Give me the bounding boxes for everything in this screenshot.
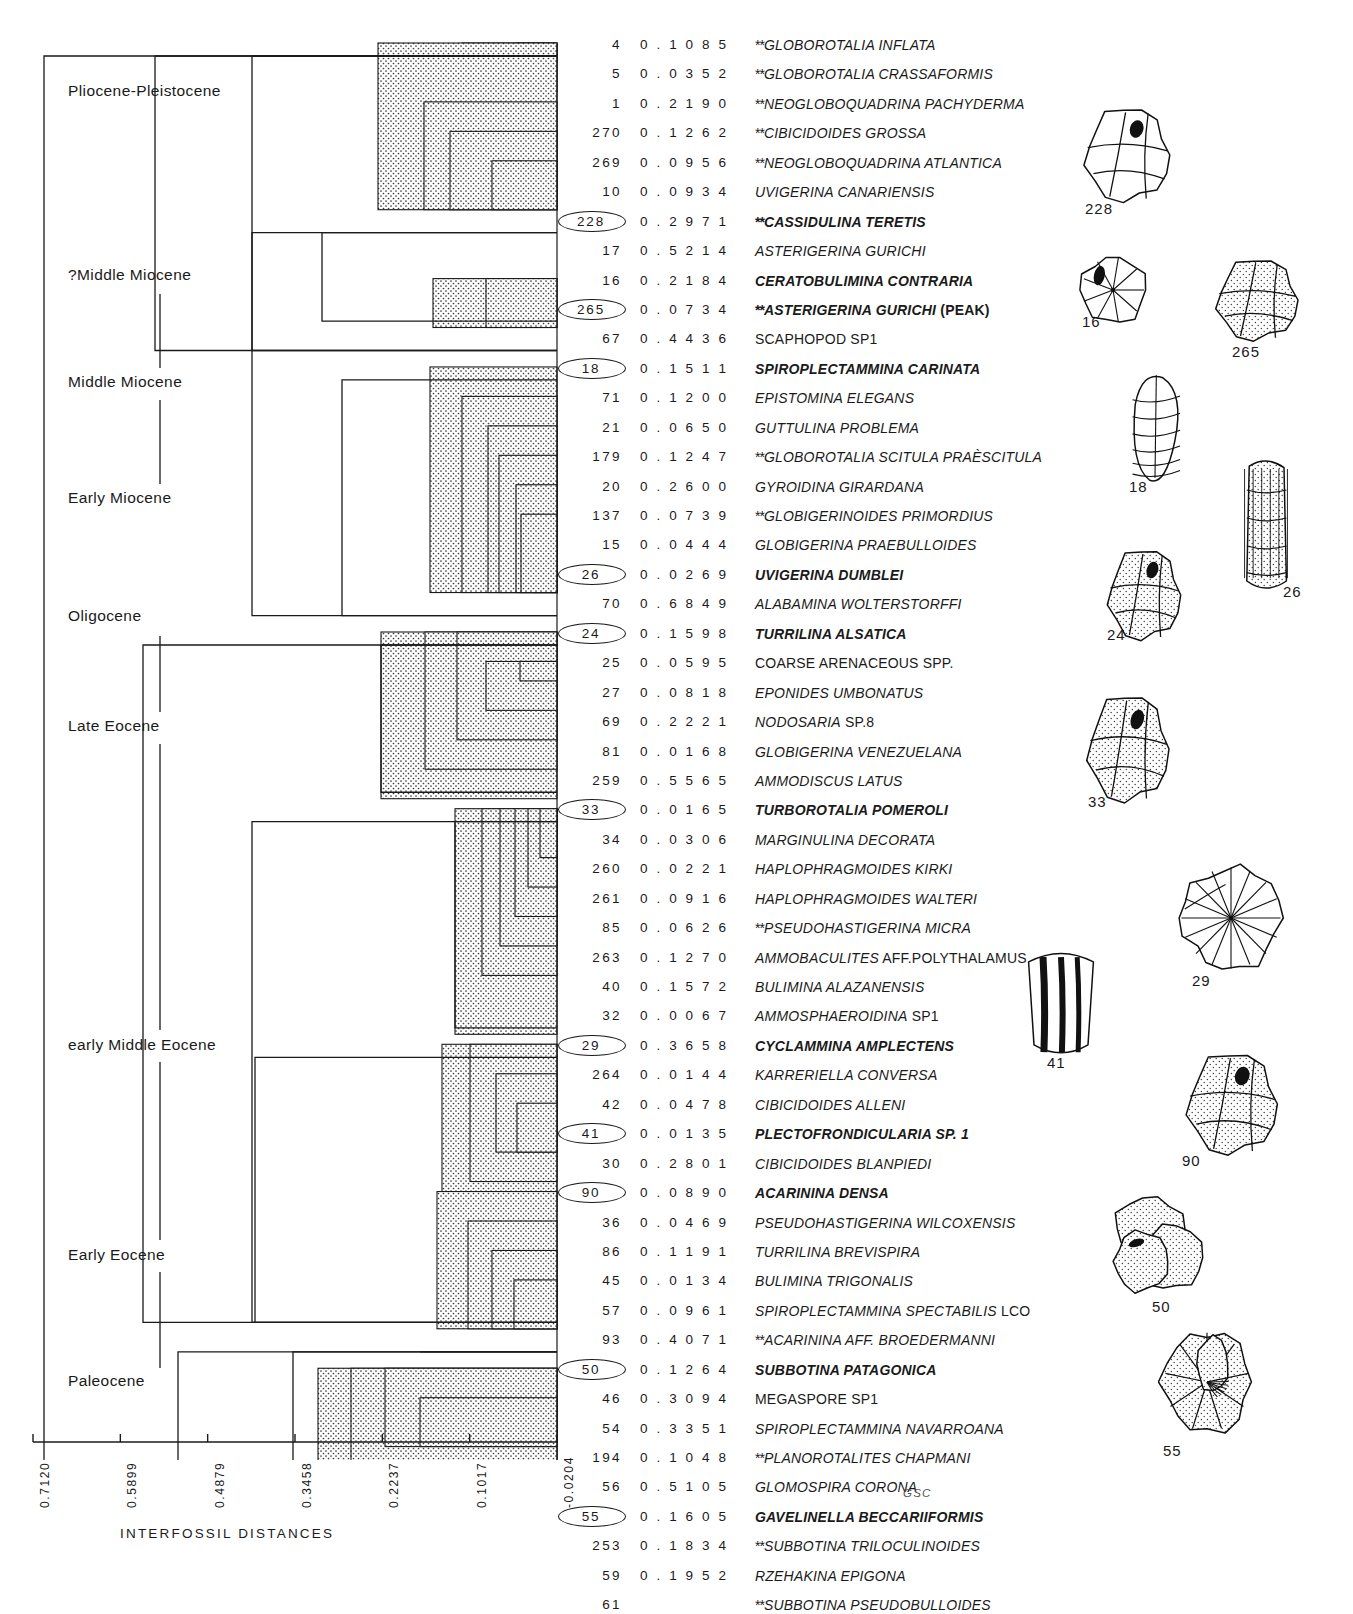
- taxon-name: UVIGERINA DUMBLEI: [755, 567, 903, 583]
- taxon-distance: 0 . 2 1 9 0: [640, 96, 732, 111]
- taxon-name: ALABAMINA WOLTERSTORFFI: [755, 596, 962, 612]
- taxon-distance: 0 . 0 1 4 4: [640, 1067, 732, 1082]
- taxon-number: 93: [560, 1332, 622, 1347]
- dendrogram-panel: Pliocene-Pleistocene?Middle MioceneMiddl…: [0, 0, 600, 1460]
- taxon-name: TURBOROTALIA POMEROLI: [755, 802, 948, 818]
- taxon-name: HAPLOPHRAGMOIDES WALTERI: [755, 891, 977, 907]
- taxon-name: **GLOBOROTALIA SCITULA PRAÈSCITULA: [755, 449, 1042, 465]
- axis-tick-label: 0.3458: [300, 1462, 314, 1508]
- taxon-distance: 0 . 0 4 6 9: [640, 1215, 732, 1230]
- taxon-number: 56: [560, 1479, 622, 1494]
- taxon-row: 1790 . 1 2 4 7**GLOBOROTALIA SCITULA PRA…: [560, 445, 1080, 474]
- taxon-row: 2280 . 2 9 7 1**CASSIDULINA TERETIS: [560, 210, 1080, 239]
- taxon-number-circled: 41: [558, 1123, 626, 1144]
- epoch-label: Early Miocene: [68, 489, 171, 507]
- taxon-row: 670 . 4 4 3 6SCAPHOPOD SP1: [560, 327, 1080, 356]
- taxon-number: 86: [560, 1244, 622, 1259]
- taxon-number-circled: 228: [558, 211, 626, 232]
- epoch-label: ?Middle Miocene: [68, 266, 191, 284]
- taxon-distance: 0 . 2 6 0 0: [640, 479, 732, 494]
- taxon-number: 61: [560, 1597, 622, 1612]
- taxon-row: 260 . 0 2 6 9UVIGERINA DUMBLEI: [560, 563, 1080, 592]
- taxon-number: 259: [560, 773, 622, 788]
- taxon-distance: 0 . 1 5 9 8: [640, 626, 732, 641]
- taxon-name: PSEUDOHASTIGERINA WILCOXENSIS: [755, 1215, 1015, 1231]
- taxon-row: 540 . 3 3 5 1SPIROPLECTAMMINA NAVARROANA: [560, 1417, 1080, 1446]
- taxon-distance: 0 . 1 0 4 8: [640, 1450, 732, 1465]
- taxon-row: 450 . 0 1 3 4BULIMINA TRIGONALIS: [560, 1269, 1080, 1298]
- fossil-number-label: 50: [1152, 1298, 1171, 1315]
- taxon-number: 46: [560, 1391, 622, 1406]
- taxon-row: 170 . 5 2 1 4ASTERIGERINA GURICHI: [560, 239, 1080, 268]
- taxon-distance: 0 . 4 4 3 6: [640, 331, 732, 346]
- taxon-name: ASTERIGERINA GURICHI: [755, 243, 926, 259]
- taxon-number: 40: [560, 979, 622, 994]
- taxon-row: 690 . 2 2 2 1NODOSARIA SP.8: [560, 710, 1080, 739]
- taxon-number: 264: [560, 1067, 622, 1082]
- interfossil-distance-axis: 0.71200.58990.48790.34580.22370.1017-0.0…: [0, 1430, 600, 1567]
- fossil-number-label: 90: [1182, 1152, 1201, 1169]
- taxon-row: 1940 . 1 0 4 8**PLANOROTALITES CHAPMANI: [560, 1446, 1080, 1475]
- taxon-row: 150 . 0 4 4 4GLOBIGERINA PRAEBULLOIDES: [560, 533, 1080, 562]
- taxon-number: 27: [560, 685, 622, 700]
- fossil-illustration: [1236, 455, 1296, 595]
- taxon-number: 270: [560, 125, 622, 140]
- taxon-name: GYROIDINA GIRARDANA: [755, 479, 924, 495]
- taxon-distance: 0 . 0 9 5 6: [640, 155, 732, 170]
- taxon-name: RZEHAKINA EPIGONA: [755, 1568, 906, 1584]
- taxon-distance: 0 . 0 8 1 8: [640, 685, 732, 700]
- taxon-row: 40 . 1 0 8 5**GLOBOROTALIA INFLATA: [560, 33, 1080, 62]
- taxon-row: 900 . 0 8 9 0ACARININA DENSA: [560, 1181, 1080, 1210]
- fossil-number-label: 16: [1082, 313, 1101, 330]
- taxon-row: 2590 . 5 5 6 5AMMODISCUS LATUS: [560, 769, 1080, 798]
- taxon-name: SPIROPLECTAMMINA SPECTABILIS LCO: [755, 1303, 1030, 1319]
- taxon-name: MARGINULINA DECORATA: [755, 832, 935, 848]
- taxon-number: 17: [560, 243, 622, 258]
- taxon-row: 360 . 0 4 6 9PSEUDOHASTIGERINA WILCOXENS…: [560, 1211, 1080, 1240]
- taxon-distance: 0 . 0 8 9 0: [640, 1185, 732, 1200]
- taxon-name: TURRILINA BREVISPIRA: [755, 1244, 920, 1260]
- taxon-distance: 0 . 1 1 9 1: [640, 1244, 732, 1259]
- taxon-row: 410 . 0 1 3 5PLECTOFRONDICULARIA SP. 1: [560, 1122, 1080, 1151]
- taxon-name: EPISTOMINA ELEGANS: [755, 390, 914, 406]
- taxon-number: 4: [560, 37, 622, 52]
- fossil-number-label: 18: [1129, 478, 1148, 495]
- taxon-row: 570 . 0 9 6 1SPIROPLECTAMMINA SPECTABILI…: [560, 1299, 1080, 1328]
- taxon-row: 550 . 1 6 0 5GAVELINELLA BECCARIIFORMIS: [560, 1505, 1080, 1534]
- axis-tick-label: 0.7120: [38, 1462, 52, 1508]
- taxon-name: **ASTERIGERINA GURICHI (PEAK): [755, 302, 990, 318]
- taxon-distance: 0 . 2 2 2 1: [640, 714, 732, 729]
- taxon-row: 240 . 1 5 9 8TURRILINA ALSATICA: [560, 622, 1080, 651]
- taxon-distance: 0 . 1 0 8 5: [640, 37, 732, 52]
- taxon-distance: 0 . 0 4 4 4: [640, 537, 732, 552]
- taxon-distance: 0 . 0 9 3 4: [640, 184, 732, 199]
- taxon-row: 100 . 0 9 3 4UVIGERINA CANARIENSIS: [560, 180, 1080, 209]
- taxon-distance: 0 . 5 2 1 4: [640, 243, 732, 258]
- taxon-distance: 0 . 1 8 3 4: [640, 1538, 732, 1553]
- taxon-number: 263: [560, 950, 622, 965]
- taxon-name: CERATOBULIMINA CONTRARIA: [755, 273, 973, 289]
- taxon-number: 54: [560, 1421, 622, 1436]
- epoch-label: Oligocene: [68, 607, 141, 625]
- taxon-name: AMMODISCUS LATUS: [755, 773, 903, 789]
- taxon-name: AMMOSPHAEROIDINA SP1: [755, 1008, 939, 1024]
- fossil-number-label: 33: [1088, 793, 1107, 810]
- taxon-row: 710 . 1 2 0 0EPISTOMINA ELEGANS: [560, 386, 1080, 415]
- taxon-distance: 0 . 0 1 3 4: [640, 1273, 732, 1288]
- taxon-distance: 0 . 0 6 2 6: [640, 920, 732, 935]
- taxon-name: CYCLAMMINA AMPLECTENS: [755, 1038, 954, 1054]
- taxon-number: 30: [560, 1156, 622, 1171]
- fossil-number-label: 41: [1047, 1054, 1066, 1071]
- taxon-name: KARRERIELLA CONVERSA: [755, 1067, 937, 1083]
- taxon-row: 300 . 2 8 0 1CIBICIDOIDES BLANPIEDI: [560, 1152, 1080, 1181]
- taxon-row: 590 . 1 9 5 2RZEHAKINA EPIGONA: [560, 1564, 1080, 1593]
- taxon-distance: 0 . 2 1 8 4: [640, 273, 732, 288]
- axis-tick-label: 0.5899: [125, 1462, 139, 1508]
- taxon-row: 320 . 0 0 6 7AMMOSPHAEROIDINA SP1: [560, 1004, 1080, 1033]
- taxon-distance: 0 . 6 8 4 9: [640, 596, 732, 611]
- taxon-number: 16: [560, 273, 622, 288]
- epoch-label: Late Eocene: [68, 717, 159, 735]
- fossil-illustration: [1122, 368, 1188, 490]
- taxon-number: 25: [560, 655, 622, 670]
- taxon-distance: 0 . 5 1 0 5: [640, 1479, 732, 1494]
